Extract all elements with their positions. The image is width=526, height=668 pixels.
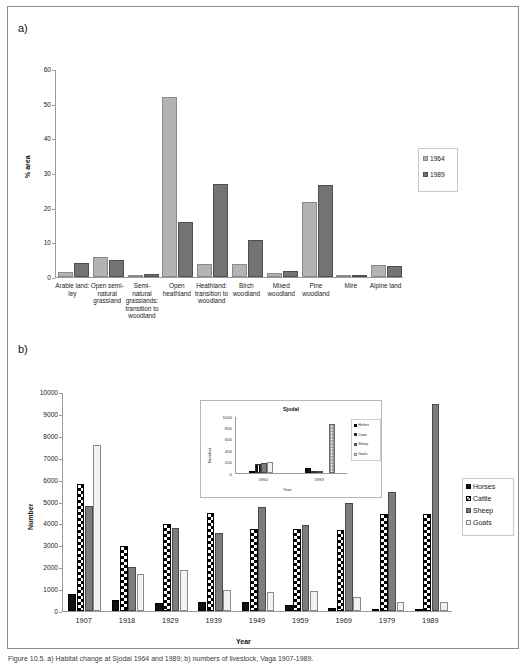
panel-a-bar-1964 (197, 264, 212, 277)
panel-b-bar-Cattle (380, 514, 388, 611)
panel-b-bar-Horses (328, 608, 336, 611)
panel-b-bar-group (155, 392, 187, 611)
panel-a-y-tick-60: 60 (29, 66, 51, 73)
inset-y-tick-600: 600 (215, 437, 232, 442)
panel-b-bar-Goats (180, 570, 188, 611)
panel-b-y-tick-mark (59, 590, 62, 591)
panel-b-bar-Horses (155, 603, 163, 611)
panel-a-y-tick-mark (52, 278, 55, 279)
inset-y-tick-0: 0 (215, 472, 232, 477)
panel-b-y-tick-3000: 3000 (29, 542, 58, 549)
panel-a-bar-1964 (302, 202, 317, 277)
panel-a-bar-1964 (336, 275, 351, 277)
inset-bar-group (305, 416, 335, 473)
inset-bar-Dotted (329, 424, 335, 473)
panel-a-bar-group (197, 69, 228, 277)
inset-legend-item-Cows: Cows (354, 432, 378, 439)
panel-a-bar-1964 (58, 272, 73, 277)
inset-bar-group (249, 416, 279, 473)
panel-b-bar-Horses (198, 602, 206, 611)
panel-b-x-label: 1959 (280, 617, 320, 625)
inset-x-label: 1960 (252, 477, 274, 482)
panel-b-y-tick-mark (59, 459, 62, 460)
panel-a-bar-group (58, 69, 89, 277)
inset-legend-label-Goats: Goats (358, 451, 367, 458)
panel-b-y-tick-mark (59, 546, 62, 547)
inset-title: Sjodal (201, 406, 381, 412)
panel-b-bar-Horses (415, 609, 423, 611)
panel-b-bar-Sheep (388, 492, 396, 611)
legend-swatch-1989-icon (423, 172, 428, 177)
inset-chart: Sjodal Number Year HeifersCowsSheepGoats… (200, 400, 382, 498)
panel-b-bar-Cattle (293, 529, 301, 611)
panel-b-y-tick-9000: 9000 (29, 411, 58, 418)
panel-b-legend: Horses Cattle Sheep Goats (462, 478, 514, 536)
panel-a-y-tick-mark (52, 105, 55, 106)
panel-b-bar-Sheep (128, 567, 136, 611)
panel-b-bar-Cattle (250, 529, 258, 611)
panel-b-bar-Horses (68, 594, 76, 611)
inset-y-tick-400: 400 (215, 449, 232, 454)
panel-b-y-tick-4000: 4000 (29, 520, 58, 527)
inset-legend-label-Sheep: Sheep (358, 441, 368, 448)
panel-a-bar-1989 (248, 240, 263, 277)
panel-b-y-tick-2000: 2000 (29, 564, 58, 571)
panel-b-y-tick-0: 0 (29, 608, 58, 615)
panel-b-bar-Sheep (215, 533, 223, 611)
inset-legend-label-Heifers: Heifers (358, 422, 369, 429)
panel-b-bar-Goats (397, 602, 405, 611)
panel-b-bar-Cattle (163, 524, 171, 611)
legend-label-goats: Goats (473, 519, 492, 526)
legend-swatch-sheep-icon (466, 508, 471, 513)
inset-legend-label-Cows: Cows (358, 432, 366, 439)
inset-bar-Heifers (305, 468, 311, 473)
panel-a-y-tick-mark (52, 243, 55, 244)
panel-b-y-tick-mark (59, 503, 62, 504)
panel-b-letter: b) (18, 343, 28, 355)
panel-a-x-label: Alpine land (354, 282, 418, 290)
inset-y-tick-800: 800 (215, 426, 232, 431)
panel-a-y-tick-30: 30 (29, 170, 51, 177)
panel-b-bar-Goats (93, 445, 101, 611)
panel-a-bar-1989 (352, 275, 367, 277)
panel-a-bar-group (267, 69, 298, 277)
panel-a-bar-group (302, 69, 333, 277)
inset-legend-item-Sheep: Sheep (354, 441, 378, 448)
panel-a-bar-group (232, 69, 263, 277)
panel-a-y-tick-10: 10 (29, 239, 51, 246)
panel-a-y-tick-mark (52, 70, 55, 71)
panel-b-bar-Sheep (345, 503, 353, 611)
panel-b-x-label: 1989 (410, 617, 450, 625)
panel-b-bar-Horses (112, 600, 120, 611)
panel-b-x-label: 1918 (107, 617, 147, 625)
panel-a-plot-area (55, 70, 403, 278)
legend-label-horses: Horses (473, 483, 495, 490)
inset-bar-Heifers (249, 471, 255, 473)
inset-legend-swatch-Cows-icon (354, 433, 357, 436)
figure-caption: Figure 10.5. a) Habitat change at Sjodal… (8, 654, 520, 666)
panel-a-y-tick-40: 40 (29, 135, 51, 142)
inset-legend-swatch-Heifers-icon (354, 424, 357, 427)
panel-b-x-label: 1929 (150, 617, 190, 625)
panel-b-y-tick-7000: 7000 (29, 455, 58, 462)
panel-a-letter: a) (18, 22, 28, 34)
panel-a-y-tick-50: 50 (29, 101, 51, 108)
panel-b-bar-Sheep (302, 525, 310, 611)
panel-b-x-label: 1949 (237, 617, 277, 625)
panel-b-bar-Goats (310, 591, 318, 611)
panel-a-bar-group (93, 69, 124, 277)
inset-plot-area (235, 417, 347, 474)
inset-y-tick-1000: 1000 (215, 415, 232, 420)
panel-b-bar-Goats (137, 574, 145, 611)
panel-b-y-tick-mark (59, 393, 62, 394)
legend-item-1964: 1964 (423, 155, 453, 162)
panel-a-bar-1989 (178, 222, 193, 277)
panel-b-bar-Goats (353, 597, 361, 611)
panel-b-bar-Sheep (172, 528, 180, 611)
panel-b-y-tick-mark (59, 568, 62, 569)
panel-b-bar-Sheep (85, 506, 93, 611)
inset-y-axis-title: Number (207, 448, 212, 463)
panel-b-bar-Sheep (258, 507, 266, 611)
inset-bar-Sheep (317, 471, 323, 473)
legend-label-cattle: Cattle (473, 495, 491, 502)
